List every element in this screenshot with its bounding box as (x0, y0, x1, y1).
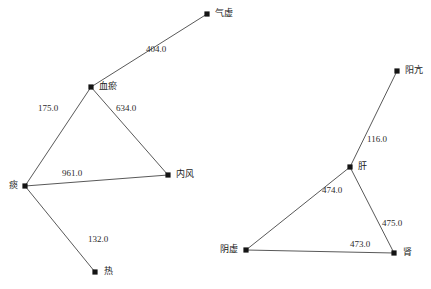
edge-weight-label: 961.0 (62, 169, 82, 178)
node-label-gan: 肝 (358, 162, 367, 171)
node-label-yangkang: 阳亢 (405, 66, 423, 75)
edge-line (25, 175, 168, 186)
edge-weight-label: 634.0 (116, 104, 136, 113)
edge-line (25, 186, 95, 272)
node-label-xueyu: 血瘀 (99, 82, 117, 91)
graph-node-yinxu[interactable] (243, 247, 248, 252)
graph-node-neifeng[interactable] (165, 172, 170, 177)
graph-node-gan[interactable] (347, 164, 352, 169)
nodes-group (22, 11, 399, 274)
network-diagram-canvas: 气虚血瘀痰内风热阳亢肝阴虚肾 404.0175.0634.0961.0132.0… (0, 0, 431, 289)
edge-weight-label: 175.0 (38, 104, 58, 113)
edge-line (91, 87, 168, 175)
node-label-qixu: 气虚 (215, 9, 233, 18)
edge-line (246, 250, 394, 253)
edge-weight-label: 116.0 (367, 135, 387, 144)
graph-node-tan[interactable] (22, 183, 27, 188)
edges-group (25, 14, 397, 272)
edge-line (350, 71, 397, 167)
node-label-re: 热 (104, 267, 113, 276)
node-label-neifeng: 内风 (176, 170, 194, 179)
edge-weight-label: 475.0 (382, 219, 402, 228)
graph-node-re[interactable] (92, 269, 97, 274)
node-label-shen: 肾 (403, 248, 412, 257)
edge-line (246, 167, 350, 250)
edge-weight-label: 474.0 (322, 186, 342, 195)
node-label-yinxu: 阴虚 (220, 245, 238, 254)
edge-weight-label: 132.0 (88, 235, 108, 244)
edge-weight-label: 473.0 (350, 240, 370, 249)
edge-weight-label: 404.0 (146, 45, 166, 54)
graph-node-shen[interactable] (391, 250, 396, 255)
node-label-tan: 痰 (9, 181, 18, 190)
graph-node-yangkang[interactable] (394, 68, 399, 73)
graph-node-qixu[interactable] (204, 11, 209, 16)
graph-node-xueyu[interactable] (88, 84, 93, 89)
